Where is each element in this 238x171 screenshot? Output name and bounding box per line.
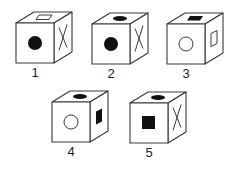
cube-label: 1 bbox=[31, 65, 38, 80]
filled-ellipse-icon bbox=[73, 94, 87, 99]
filled-circle-icon bbox=[28, 36, 42, 50]
cube-5: 5 bbox=[130, 92, 186, 160]
cube-4: 4 bbox=[52, 91, 108, 159]
front-face bbox=[52, 102, 90, 142]
cube-label: 5 bbox=[145, 145, 152, 160]
filled-circle-icon bbox=[104, 37, 118, 51]
cube-2: 2 bbox=[92, 13, 148, 81]
front-face bbox=[167, 24, 205, 64]
cube-1: 1 bbox=[16, 12, 72, 80]
cube-label: 2 bbox=[107, 66, 114, 81]
cube-label: 4 bbox=[67, 144, 74, 159]
filled-square-icon bbox=[142, 116, 155, 129]
filled-ellipse-icon bbox=[151, 95, 165, 100]
cube-diagram: 12345 bbox=[0, 0, 238, 171]
cube-label: 3 bbox=[182, 66, 189, 81]
filled-ellipse-icon bbox=[113, 16, 127, 21]
cube-3: 3 bbox=[167, 13, 223, 81]
